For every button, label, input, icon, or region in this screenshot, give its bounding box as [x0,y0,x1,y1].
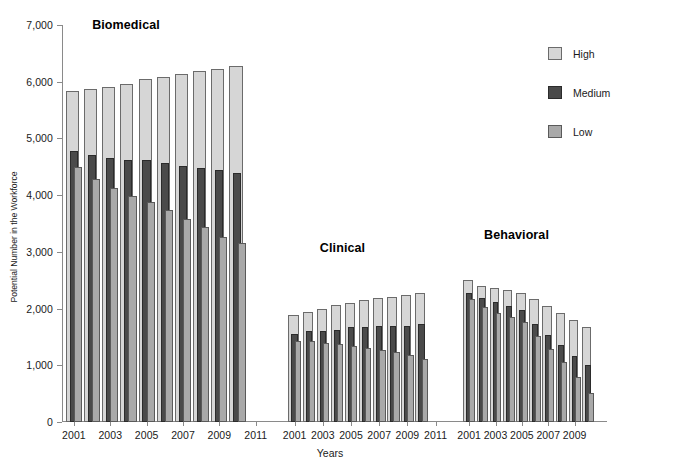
bar-low-2007 [548,349,554,422]
y-tick-label: 2,000 [26,303,53,315]
bar-low-2003 [110,188,118,422]
x-tick [548,422,549,426]
bar-low-2001 [295,341,301,422]
x-tick-label: 2009 [207,429,231,441]
y-tick [57,82,62,83]
bar-low-2005 [147,202,155,422]
y-tick [57,195,62,196]
x-tick [407,422,408,426]
bar-low-2010 [588,393,594,422]
panel-title-behavioral: Behavioral [484,228,549,242]
bar-low-2007 [183,219,191,422]
bar-low-2009 [219,237,227,422]
plot-area: 01,0002,0003,0004,0005,0006,0007,000 200… [62,25,607,422]
panel-title-biomedical: Biomedical [92,18,160,32]
x-tick [74,422,75,426]
bar-low-2010 [238,243,246,422]
x-tick-label: 2003 [311,429,335,441]
x-tick-label: 2003 [98,429,122,441]
y-tick-label: 4,000 [26,189,53,201]
y-tick-label: 7,000 [26,19,53,31]
panel-title-clinical: Clinical [320,241,365,255]
bar-low-2006 [365,348,371,422]
bar-low-2006 [535,336,541,422]
y-axis-line [62,25,63,422]
y-tick-label: 1,000 [26,359,53,371]
bar-low-2002 [482,307,488,422]
y-tick [57,422,62,423]
y-tick [57,309,62,310]
x-tick [379,422,380,426]
legend: High Medium Low [548,47,668,164]
x-tick-label: 2011 [244,429,267,441]
y-tick-label: 3,000 [26,246,53,258]
x-tick-label: 2009 [396,429,420,441]
bar-low-2004 [337,344,343,422]
x-tick-label: 2005 [339,429,363,441]
y-tick-label: 5,000 [26,132,53,144]
legend-item-low[interactable]: Low [548,125,668,138]
x-tick-label: 2007 [367,429,391,441]
x-tick [436,422,437,426]
bar-low-2004 [509,317,515,422]
x-tick-label: 2005 [135,429,159,441]
x-tick-label: 2001 [62,429,86,441]
x-tick-label: 2005 [510,429,534,441]
bar-low-2001 [74,167,82,422]
y-tick [57,25,62,26]
bar-low-2008 [201,227,209,422]
y-tick-label: 0 [47,416,53,428]
x-tick [219,422,220,426]
x-tick [496,422,497,426]
bar-low-2005 [351,346,357,422]
x-axis-label: Years [317,447,343,459]
x-tick [575,422,576,426]
panel-clinical: 200120032005200720092011 [287,25,442,422]
legend-label-medium: Medium [573,87,610,99]
x-tick-label: 2011 [424,429,447,441]
bar-low-2006 [165,210,173,422]
y-tick [57,365,62,366]
chart-canvas: Potential Number in the Workforce Years … [0,0,675,473]
panel-biomedical: 200120032005200720092011 [64,25,264,422]
x-tick-label: 2009 [563,429,587,441]
legend-swatch-low [548,125,562,138]
legend-item-medium[interactable]: Medium [548,86,668,99]
bar-low-2009 [575,377,581,422]
x-tick [110,422,111,426]
legend-item-high[interactable]: High [548,47,668,60]
x-tick [522,422,523,426]
y-tick [57,138,62,139]
bar-low-2003 [323,343,329,422]
bar-low-2002 [92,179,100,422]
x-tick [469,422,470,426]
x-tick [295,422,296,426]
legend-label-low: Low [573,126,592,138]
y-tick [57,252,62,253]
bar-low-2008 [393,352,399,422]
legend-swatch-medium [548,86,562,99]
x-tick [256,422,257,426]
bar-low-2003 [496,313,502,422]
x-tick-label: 2007 [171,429,195,441]
bar-low-2009 [407,355,413,422]
x-tick-label: 2001 [283,429,307,441]
x-tick [183,422,184,426]
bar-low-2001 [469,299,475,422]
bar-low-2007 [379,350,385,422]
legend-swatch-high [548,47,562,60]
x-tick [351,422,352,426]
y-axis-label: Potential Number in the Workforce [9,171,19,302]
bar-low-2010 [422,359,428,422]
legend-label-high: High [573,48,595,60]
x-tick [147,422,148,426]
x-tick [323,422,324,426]
y-tick-label: 6,000 [26,76,53,88]
bar-low-2008 [561,362,567,422]
x-tick-label: 2001 [457,429,481,441]
bar-low-2005 [522,322,528,422]
x-tick-label: 2003 [484,429,508,441]
bar-low-2004 [128,196,136,422]
bar-low-2002 [309,341,315,422]
x-tick-label: 2007 [536,429,560,441]
